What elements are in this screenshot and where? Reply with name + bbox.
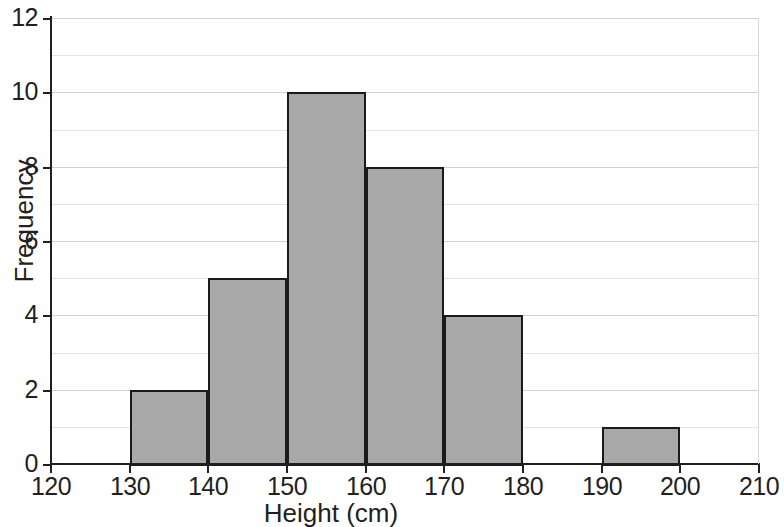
gridline-minor bbox=[51, 55, 759, 56]
x-axis-line bbox=[51, 463, 760, 465]
y-axis-tick-label: 2 bbox=[0, 377, 38, 402]
x-axis-tick-label: 160 bbox=[331, 473, 401, 499]
x-axis-tick-label: 120 bbox=[16, 473, 86, 499]
y-axis-tick bbox=[43, 241, 52, 243]
histogram-bar bbox=[602, 427, 681, 466]
x-axis-tick-label: 130 bbox=[95, 473, 165, 499]
histogram-bar bbox=[287, 92, 366, 466]
plot-area bbox=[51, 18, 759, 464]
gridline-minor bbox=[51, 130, 759, 131]
histogram-bar bbox=[208, 278, 287, 466]
x-axis-tick-label: 200 bbox=[645, 473, 715, 499]
histogram-bar bbox=[130, 390, 209, 466]
histogram-bar bbox=[366, 167, 445, 466]
x-axis-title: Height (cm) bbox=[51, 500, 611, 526]
y-axis-tick bbox=[43, 18, 52, 20]
y-axis-title: Frequency bbox=[11, 91, 37, 351]
plot-right-border bbox=[758, 18, 759, 464]
x-axis-tick-label: 150 bbox=[252, 473, 322, 499]
x-axis-tick-label: 170 bbox=[409, 473, 479, 499]
y-axis-tick bbox=[43, 92, 52, 94]
histogram-bar bbox=[444, 315, 523, 466]
x-axis-tick-label: 180 bbox=[488, 473, 558, 499]
y-axis-tick bbox=[43, 390, 52, 392]
gridline-major bbox=[51, 18, 759, 19]
x-axis-tick-label: 210 bbox=[724, 473, 784, 499]
x-axis-tick-label: 190 bbox=[567, 473, 637, 499]
y-axis-tick bbox=[43, 167, 52, 169]
gridline-major bbox=[51, 92, 759, 93]
y-axis-tick bbox=[43, 315, 52, 317]
x-axis-tick-label: 140 bbox=[173, 473, 243, 499]
y-axis-tick-label: 12 bbox=[0, 5, 38, 30]
